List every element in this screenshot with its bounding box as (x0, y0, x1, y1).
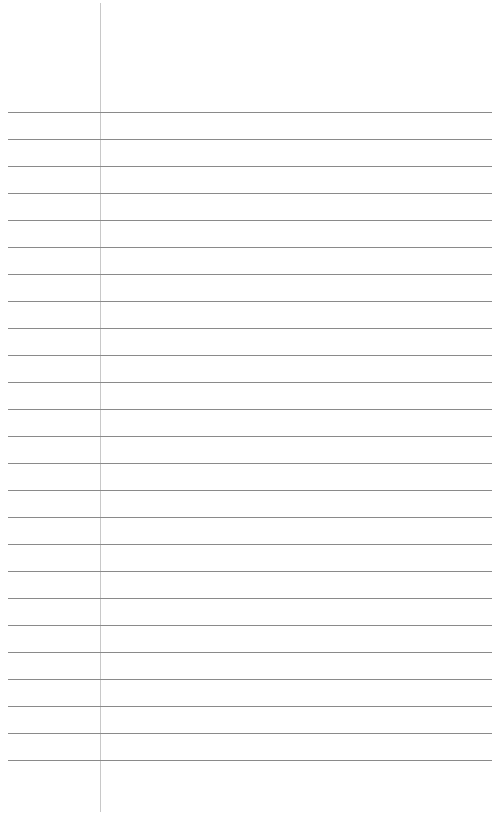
ruled-line (8, 706, 492, 707)
ruled-line (8, 166, 492, 167)
ruled-line (8, 274, 492, 275)
ruled-line (8, 625, 492, 626)
ruled-line (8, 382, 492, 383)
ruled-line (8, 112, 492, 113)
ruled-line (8, 436, 492, 437)
ruled-line (8, 139, 492, 140)
ruled-line (8, 571, 492, 572)
ruled-line (8, 760, 492, 761)
ruled-line (8, 733, 492, 734)
ruled-line (8, 490, 492, 491)
ruled-line (8, 517, 492, 518)
lined-paper-page (0, 0, 494, 816)
ruled-line (8, 598, 492, 599)
ruled-line (8, 193, 492, 194)
ruled-line (8, 544, 492, 545)
ruled-line (8, 679, 492, 680)
margin-line (100, 3, 101, 812)
ruled-line (8, 652, 492, 653)
ruled-line (8, 328, 492, 329)
ruled-line (8, 355, 492, 356)
ruled-line (8, 247, 492, 248)
ruled-line (8, 220, 492, 221)
ruled-line (8, 301, 492, 302)
ruled-line (8, 409, 492, 410)
ruled-line (8, 463, 492, 464)
